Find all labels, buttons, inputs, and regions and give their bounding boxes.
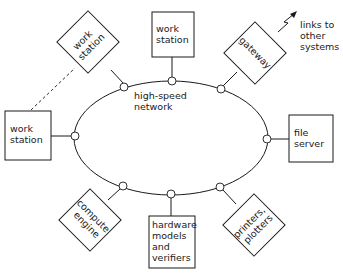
external-links-label: links to other systems [300,19,339,52]
node-right [263,135,271,143]
compute-engine[interactable]: compute engine [59,189,122,252]
printers-plotters[interactable]: printers, plotters [223,194,285,256]
network-diagram: high-speed network work station [0,0,343,273]
workstation-upper-left[interactable]: work station [57,11,119,73]
external-link-zigzag [278,14,294,32]
file-server[interactable]: file server [289,115,333,162]
node-left [71,132,79,140]
dashed-link [31,68,75,110]
gateway[interactable]: gateway [224,22,286,84]
node-bottom [167,190,175,198]
workstation-top[interactable]: work station [152,12,194,57]
node-lower-right [216,183,224,191]
network-label: high-speed network [134,90,190,112]
hardware-models-verifiers[interactable]: hardware models and verifiers [149,216,200,268]
node-upper-left [120,83,128,91]
node-upper-right [217,85,225,93]
node-lower-left [119,182,127,190]
workstation-left[interactable]: work station [5,111,51,160]
node-top [168,77,176,85]
